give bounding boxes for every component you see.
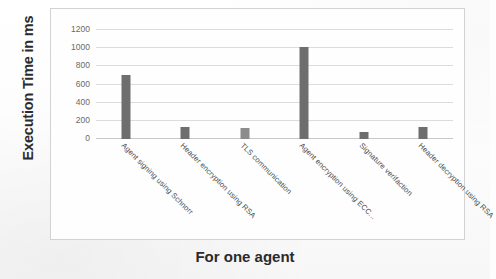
bar [181, 127, 190, 139]
y-axis-tick-label: 400 [76, 97, 90, 107]
y-axis-tick-label: 0 [85, 133, 90, 143]
y-axis-tick-label: 800 [76, 60, 90, 70]
bar [419, 127, 428, 139]
x-axis-tick-label: Header decryption using RSA [417, 141, 496, 220]
y-axis-tick-label: 200 [76, 115, 90, 125]
plot-area: 020040060080010001200 [96, 30, 453, 139]
y-axis-tick-label: 1200 [71, 24, 90, 34]
bar [359, 132, 368, 139]
y-axis-tick-label: 600 [76, 79, 90, 89]
bar-series [96, 30, 453, 139]
bar [121, 75, 130, 139]
y-axis-title: Execution Time in ms [20, 0, 36, 178]
x-axis-tick-label: Signature verifaction [357, 141, 414, 198]
y-axis-tick-label: 1000 [71, 42, 90, 52]
plot-frame: 020040060080010001200 Agent signing usin… [50, 8, 465, 240]
bar [300, 47, 309, 139]
bar [240, 128, 249, 139]
x-axis-tick-labels: Agent signing using SchnorrHeader encryp… [96, 141, 453, 241]
x-axis-tick-label: TLS communication [238, 141, 293, 196]
x-axis-title: For one agent [0, 248, 490, 265]
